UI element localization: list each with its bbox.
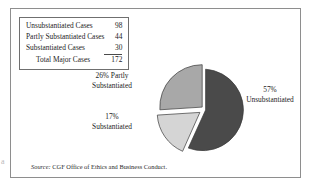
row-value-substantiated: 30	[104, 43, 122, 55]
source-text: CGF Office of Ethics and Business Conduc…	[52, 163, 167, 170]
row-label-total: Total Major Cases	[26, 55, 104, 67]
table-row: Partly Substantiated Cases 44	[26, 32, 122, 43]
page-bleed-glyph: a	[1, 158, 5, 166]
row-label-partly-substantiated: Partly Substantiated Cases	[26, 32, 104, 43]
pie-slice-partly-substantiated	[160, 65, 202, 110]
row-value-partly-substantiated: 44	[104, 32, 122, 43]
row-value-unsubstantiated: 98	[104, 21, 122, 32]
pie-chart	[151, 61, 255, 159]
pie-label-substantiated-line1: 17%	[73, 112, 151, 122]
pie-label-unsubstantiated-line2: Unsubstantiated	[233, 95, 307, 105]
row-value-total: 172	[104, 55, 122, 67]
table-row: Substantiated Cases 30	[26, 43, 122, 55]
table-row: Unsubstantiated Cases 98	[26, 21, 122, 32]
row-label-substantiated: Substantiated Cases	[26, 43, 104, 55]
figure-border-frame: Unsubstantiated Cases 98 Partly Substant…	[10, 8, 301, 178]
pie-label-partly-substantiated: 26% Partly Substantiated	[73, 71, 151, 91]
pie-label-substantiated-line2: Substantiated	[73, 122, 151, 132]
figure-root: a Unsubstantiated Cases 98 Partly Substa…	[0, 0, 317, 192]
source-prefix: Source:	[31, 163, 51, 170]
pie-label-partly-line1: 26% Partly	[73, 71, 151, 81]
case-data-table: Unsubstantiated Cases 98 Partly Substant…	[19, 17, 129, 70]
pie-label-partly-line2: Substantiated	[73, 81, 151, 91]
source-note: Source: CGF Office of Ethics and Busines…	[31, 163, 167, 170]
pie-label-substantiated: 17% Substantiated	[73, 112, 151, 132]
case-table: Unsubstantiated Cases 98 Partly Substant…	[26, 21, 122, 66]
pie-label-unsubstantiated-line1: 57%	[233, 85, 307, 95]
table-total-row: Total Major Cases 172	[26, 55, 122, 67]
pie-label-unsubstantiated: 57% Unsubstantiated	[233, 85, 307, 105]
row-label-unsubstantiated: Unsubstantiated Cases	[26, 21, 104, 32]
